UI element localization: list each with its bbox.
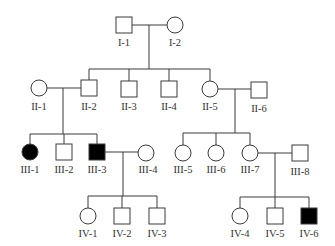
female-circle-icon [80, 208, 96, 224]
individual-II-2: II-2 [81, 80, 97, 112]
male-square-icon [114, 208, 130, 224]
individual-II-4: II-4 [161, 81, 178, 112]
label-III-7: III-7 [240, 164, 259, 175]
label-III-3: III-3 [87, 164, 106, 175]
male-square-icon [267, 208, 283, 224]
male-square-icon [251, 82, 267, 98]
male-square-icon [121, 81, 137, 97]
affected-male-square-icon [301, 208, 317, 224]
individual-III-8: III-8 [290, 145, 309, 177]
male-square-icon [116, 17, 132, 33]
label-IV-3: IV-3 [148, 228, 167, 239]
affected-male-square-icon [89, 144, 105, 160]
label-III-8: III-8 [290, 166, 309, 177]
label-I-2: I-2 [169, 37, 181, 48]
individual-I-2: I-2 [167, 17, 183, 48]
individual-IV-2: IV-2 [113, 208, 132, 239]
affected-female-circle-icon [22, 144, 38, 160]
male-square-icon [161, 81, 177, 97]
individual-II-5: II-5 [202, 81, 218, 112]
label-II-4: II-4 [161, 101, 177, 112]
connector-lines [30, 25, 309, 208]
female-circle-icon [167, 17, 183, 33]
label-IV-1: IV-1 [79, 228, 98, 239]
individual-III-7: III-7 [240, 145, 259, 175]
individual-II-6: II-6 [251, 82, 267, 114]
label-III-6: III-6 [206, 164, 225, 175]
label-IV-5: IV-5 [266, 228, 285, 239]
individual-I-1: I-1 [116, 17, 132, 48]
label-IV-4: IV-4 [231, 228, 251, 239]
individual-III-4: III-4 [138, 145, 158, 175]
label-III-2: III-2 [54, 164, 73, 175]
male-square-icon [56, 144, 72, 160]
individual-III-2: III-2 [54, 144, 73, 175]
female-circle-icon [138, 145, 154, 161]
label-II-6: II-6 [251, 103, 267, 114]
individual-IV-1: IV-1 [79, 208, 98, 239]
male-square-icon [81, 80, 97, 96]
individual-II-3: II-3 [121, 81, 137, 112]
female-circle-icon [202, 81, 218, 97]
individual-IV-3: IV-3 [148, 208, 167, 239]
label-II-5: II-5 [202, 101, 218, 112]
individual-IV-5: IV-5 [266, 208, 285, 239]
female-circle-icon [208, 145, 224, 161]
individual-III-6: III-6 [206, 145, 225, 175]
label-III-5: III-5 [173, 164, 192, 175]
individual-IV-6: IV-6 [300, 208, 319, 239]
male-square-icon [149, 208, 165, 224]
label-I-1: I-1 [118, 37, 130, 48]
label-III-1: III-1 [20, 164, 39, 175]
individual-II-1: II-1 [31, 80, 47, 112]
female-circle-icon [175, 145, 191, 161]
label-III-4: III-4 [138, 164, 158, 175]
individual-IV-4: IV-4 [231, 208, 251, 239]
label-II-2: II-2 [81, 101, 97, 112]
male-square-icon [292, 145, 308, 161]
individual-III-5: III-5 [173, 145, 192, 175]
pedigree-diagram: I-1 I-2 II-1 II-2 II-3 II-4 II-5 II-6 II… [0, 0, 335, 246]
female-circle-icon [242, 145, 258, 161]
label-II-1: II-1 [31, 101, 47, 112]
female-circle-icon [232, 208, 248, 224]
individual-III-3: III-3 [87, 144, 106, 175]
female-circle-icon [31, 80, 47, 96]
label-IV-2: IV-2 [113, 228, 132, 239]
label-II-3: II-3 [121, 101, 137, 112]
individual-III-1: III-1 [20, 144, 39, 175]
label-IV-6: IV-6 [300, 228, 319, 239]
